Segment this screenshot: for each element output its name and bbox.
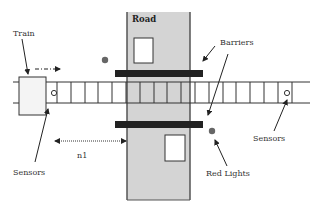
sensor-left [51, 90, 56, 95]
car-top [134, 38, 153, 63]
car-bottom [165, 135, 185, 161]
level-crossing-diagram: Road Train Sensors Sensors Red Lights Ba… [0, 0, 324, 208]
train-pointer [22, 39, 28, 74]
distance-label: n1 [77, 151, 87, 160]
barrier-bottom [115, 121, 203, 128]
road-label: Road [132, 14, 156, 24]
train-label: Train [13, 29, 35, 38]
red-lights-pointer [215, 140, 227, 166]
red-light-left [102, 57, 108, 63]
red-lights-label: Red Lights [206, 169, 250, 178]
sensors-right-label: Sensors [253, 134, 285, 143]
barriers-label: Barriers [220, 38, 254, 47]
red-light-right [209, 128, 215, 134]
sensors-left-label: Sensors [13, 168, 45, 177]
barrier-top [115, 70, 203, 77]
train [19, 77, 46, 115]
barriers-pointer-bottom [208, 54, 228, 115]
sensors-right-pointer [274, 100, 287, 131]
barriers-pointer-top [203, 46, 215, 61]
sensor-right [284, 90, 289, 95]
sensors-left-pointer [35, 109, 48, 162]
